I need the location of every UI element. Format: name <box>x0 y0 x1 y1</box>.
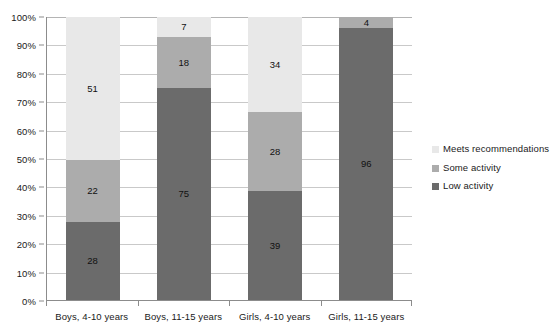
legend-item[interactable]: Low activity <box>432 180 550 192</box>
legend-label: Low activity <box>443 180 493 192</box>
legend-item[interactable]: Meets recommendations <box>432 143 550 155</box>
bar-segment[interactable]: 51 <box>66 17 120 160</box>
bar-stack[interactable]: 512228 <box>66 17 120 300</box>
bar-segment[interactable]: 4 <box>339 17 393 28</box>
bar-group: 496 <box>321 17 412 300</box>
x-axis-category-label: Girls, 4-10 years <box>229 301 321 331</box>
y-axis-tick-label: 30% <box>17 210 36 221</box>
y-axis-tick-label: 100% <box>11 12 36 23</box>
x-axis-category-text: Girls, 11-15 years <box>328 311 404 322</box>
bar-segment[interactable]: 39 <box>248 191 302 300</box>
stacked-bar-chart: 0%10%20%30%40%50%60%70%80%90%100% 512228… <box>0 0 552 332</box>
bar-stack[interactable]: 496 <box>339 17 393 300</box>
x-axis: Boys, 4-10 yearsBoys, 11-15 yearsGirls, … <box>46 301 412 331</box>
bar-segment[interactable]: 18 <box>157 37 211 88</box>
legend-label: Some activity <box>443 162 501 174</box>
bar-segment[interactable]: 34 <box>248 17 302 112</box>
x-axis-tick-mark <box>411 301 412 306</box>
x-axis-category-label: Boys, 11-15 years <box>138 301 230 331</box>
x-axis-category-text: Boys, 11-15 years <box>144 311 222 322</box>
bar-value-label: 34 <box>270 60 281 70</box>
bar-segment[interactable]: 75 <box>157 88 211 300</box>
legend-swatch-icon <box>432 146 439 153</box>
bar-value-label: 22 <box>87 186 98 196</box>
legend-swatch-icon <box>432 183 439 190</box>
bar-group: 71875 <box>138 17 229 300</box>
y-axis-tick-mark <box>39 45 44 46</box>
bar-value-label: 7 <box>181 22 186 32</box>
legend-label: Meets recommendations <box>443 143 549 155</box>
y-axis-tick-mark <box>39 130 44 131</box>
x-axis-tick-mark <box>321 301 322 306</box>
bar-value-label: 96 <box>361 159 372 169</box>
bar-segment[interactable]: 22 <box>66 160 120 222</box>
x-axis-category-text: Boys, 4-10 years <box>55 311 128 322</box>
x-axis-category-text: Girls, 4-10 years <box>239 311 310 322</box>
y-axis-tick-mark <box>39 159 44 160</box>
bar-segment[interactable]: 96 <box>339 28 393 300</box>
y-axis-tick-mark <box>39 244 44 245</box>
bar-value-label: 28 <box>87 256 98 266</box>
y-axis-tick-label: 80% <box>17 68 36 79</box>
legend-swatch-icon <box>432 165 439 172</box>
y-axis-tick-mark <box>39 215 44 216</box>
plot-area: 51222871875342839496 <box>46 17 412 301</box>
x-axis-category-label: Girls, 11-15 years <box>321 301 413 331</box>
y-axis-tick-label: 90% <box>17 40 36 51</box>
x-axis-tick-mark <box>46 301 47 306</box>
bar-value-label: 18 <box>179 58 190 68</box>
bar-segment[interactable]: 28 <box>66 222 120 300</box>
y-axis-tick-mark <box>39 272 44 273</box>
bar-value-label: 51 <box>87 84 98 94</box>
y-axis-tick-mark <box>39 73 44 74</box>
bar-stack[interactable]: 342839 <box>248 17 302 300</box>
bar-stack[interactable]: 71875 <box>157 17 211 300</box>
bar-group: 512228 <box>47 17 138 300</box>
y-axis-tick-label: 70% <box>17 97 36 108</box>
legend-item[interactable]: Some activity <box>432 162 550 174</box>
y-axis-tick-label: 0% <box>22 296 36 307</box>
y-axis-tick-label: 50% <box>17 154 36 165</box>
y-axis-tick-label: 40% <box>17 182 36 193</box>
y-axis-tick-mark <box>39 187 44 188</box>
y-axis-tick-mark <box>39 301 44 302</box>
bar-value-label: 39 <box>270 241 281 251</box>
x-axis-tick-mark <box>229 301 230 306</box>
bar-segment[interactable]: 7 <box>157 17 211 37</box>
y-axis-tick-mark <box>39 17 44 18</box>
x-axis-tick-mark <box>138 301 139 306</box>
y-axis-tick-mark <box>39 102 44 103</box>
bars-layer: 51222871875342839496 <box>47 17 412 300</box>
y-axis-tick-label: 20% <box>17 239 36 250</box>
y-axis-tick-label: 10% <box>17 267 36 278</box>
y-axis-tick-label: 60% <box>17 125 36 136</box>
x-axis-category-label: Boys, 4-10 years <box>46 301 138 331</box>
bar-group: 342839 <box>230 17 321 300</box>
chart-legend: Meets recommendationsSome activityLow ac… <box>432 143 550 199</box>
bar-segment[interactable]: 28 <box>248 112 302 190</box>
bar-value-label: 28 <box>270 147 281 157</box>
bar-value-label: 75 <box>179 189 190 199</box>
bar-value-label: 4 <box>364 18 369 28</box>
y-axis: 0%10%20%30%40%50%60%70%80%90%100% <box>0 17 44 301</box>
